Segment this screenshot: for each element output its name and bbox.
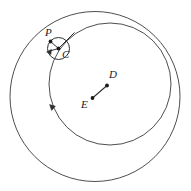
segment-c-upper-right	[59, 33, 75, 49]
label-d: D	[109, 69, 117, 80]
geometry-figure: P C D E	[0, 0, 191, 191]
label-p: P	[45, 27, 52, 38]
point-d-dot	[105, 84, 109, 88]
segment-ed	[93, 86, 108, 99]
label-c: C	[62, 49, 69, 60]
point-c-dot	[57, 47, 61, 51]
point-p-dot	[49, 40, 53, 44]
label-e: E	[81, 99, 88, 110]
point-e-dot	[91, 96, 95, 100]
figure-canvas	[0, 0, 191, 191]
